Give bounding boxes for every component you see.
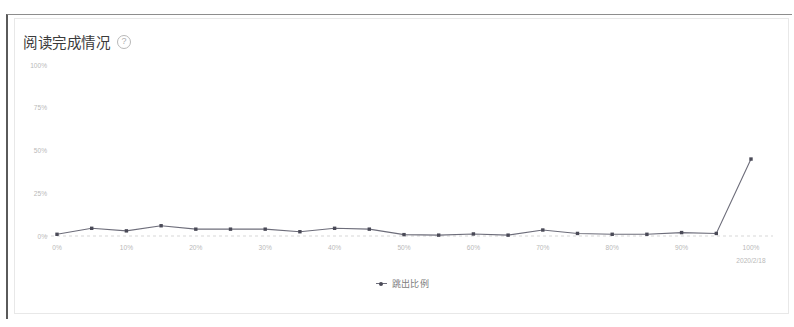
legend-marker-icon	[376, 278, 387, 289]
y-axis-tick-label: 100%	[30, 62, 47, 69]
series-data-point[interactable]	[368, 227, 371, 230]
x-axis-tick-label: 50%	[397, 244, 410, 251]
x-axis-tick-label: 100%	[743, 244, 760, 251]
series-data-point[interactable]	[749, 157, 752, 160]
series-data-point[interactable]	[506, 233, 509, 236]
chart-area: 0%25%50%75%100% 0%10%20%30%40%50%60%70%8…	[15, 19, 790, 315]
series-data-point[interactable]	[90, 227, 93, 230]
chart-legend: 跳出比例	[15, 277, 790, 290]
x-axis-tick-label: 90%	[675, 244, 688, 251]
series-group	[55, 157, 752, 236]
y-axis-tick-label: 25%	[34, 190, 47, 197]
y-axis-tick-label: 50%	[34, 147, 47, 154]
x-axis-tick-label: 10%	[120, 244, 133, 251]
x-axis-tick-label: 30%	[259, 244, 272, 251]
series-data-point[interactable]	[715, 232, 718, 235]
series-data-point[interactable]	[576, 232, 579, 235]
series-data-point[interactable]	[437, 233, 440, 236]
series-data-point[interactable]	[680, 231, 683, 234]
series-data-point[interactable]	[298, 230, 301, 233]
series-line	[57, 159, 751, 235]
series-data-point[interactable]	[611, 233, 614, 236]
series-data-point[interactable]	[229, 227, 232, 230]
x-axis-tick-label: 60%	[467, 244, 480, 251]
series-data-point[interactable]	[645, 233, 648, 236]
x-axis-tick-group: 0%10%20%30%40%50%60%70%80%90%100%	[52, 244, 759, 251]
series-data-point[interactable]	[159, 224, 162, 227]
reading-completion-card: 阅读完成情况 ? 0%25%50%75%100% 0%10%20%30%40%5…	[14, 18, 789, 314]
x-axis-date-label: 2020/2/18	[736, 257, 766, 264]
x-axis-tick-label: 80%	[606, 244, 619, 251]
screenshot-root: 阅读完成情况 ? 0%25%50%75%100% 0%10%20%30%40%5…	[0, 0, 794, 327]
x-axis-tick-label: 40%	[328, 244, 341, 251]
legend-item-label[interactable]: 跳出比例	[392, 277, 429, 290]
series-data-point[interactable]	[402, 233, 405, 236]
y-axis-tick-label: 75%	[34, 104, 47, 111]
series-data-point[interactable]	[125, 229, 128, 232]
series-data-point[interactable]	[55, 233, 58, 236]
x-axis-tick-label: 20%	[189, 244, 202, 251]
x-axis-tick-label: 70%	[536, 244, 549, 251]
series-data-point[interactable]	[264, 227, 267, 230]
line-chart: 0%25%50%75%100% 0%10%20%30%40%50%60%70%8…	[15, 19, 790, 315]
x-axis-tick-label: 0%	[52, 244, 62, 251]
series-data-point[interactable]	[541, 228, 544, 231]
series-data-point[interactable]	[194, 227, 197, 230]
y-axis-tick-group: 0%25%50%75%100%	[30, 62, 47, 240]
series-data-point[interactable]	[472, 232, 475, 235]
series-data-point[interactable]	[333, 227, 336, 230]
